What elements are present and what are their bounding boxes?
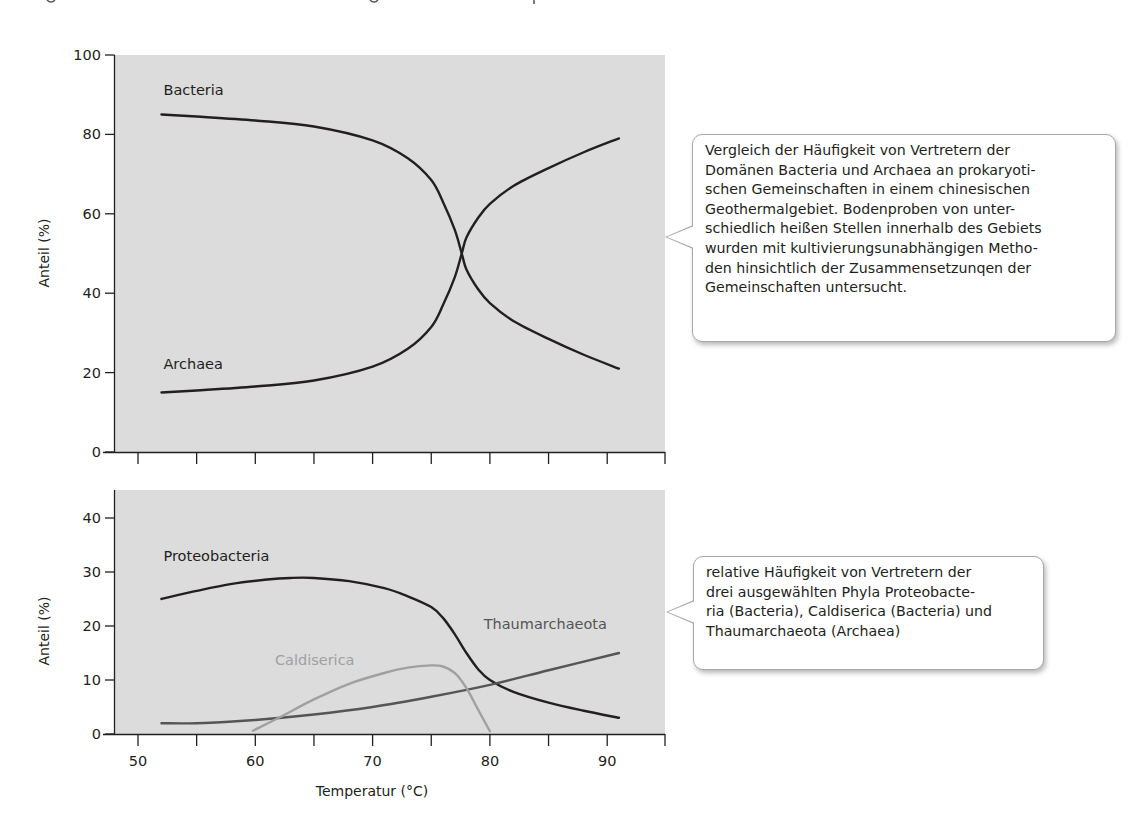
- x-tick-label: 60: [246, 753, 264, 769]
- callout-bottom-text: relative Häufigkeit von Vertretern der d…: [706, 563, 1033, 641]
- x-tick-label: 70: [363, 753, 381, 769]
- series-label-proteobacteria: Proteobacteria: [163, 548, 269, 564]
- x-tick-label: 80: [481, 753, 499, 769]
- y-tick-label: 0: [92, 726, 101, 742]
- y-tick-label: 20: [83, 618, 101, 634]
- y-tick-label: 0: [92, 444, 101, 460]
- y-tick-label: 80: [83, 126, 101, 142]
- y-tick-label: 40: [83, 510, 101, 526]
- series-label-bacteria: Bacteria: [163, 82, 223, 98]
- series-label-archaea: Archaea: [163, 356, 222, 372]
- figure: 020406080100 BacteriaArchaea Anteil (%) …: [0, 0, 1143, 826]
- x-axis-bottom: 5060708090: [103, 734, 665, 769]
- callout-top-text: Vergleich der Häufigkeit von Vertretern …: [705, 141, 1105, 298]
- y-axis-bottom: 010203040: [83, 490, 115, 742]
- y-axis-top: 020406080100: [73, 47, 114, 460]
- cropped-text-descenders: [47, 0, 534, 4]
- series-label-thaumarchaeota: Thaumarchaeota: [483, 616, 607, 632]
- y-tick-label: 40: [83, 285, 101, 301]
- y-tick-label: 30: [83, 564, 101, 580]
- series-label-caldiserica: Caldiserica: [275, 652, 355, 668]
- y-tick-label: 60: [83, 206, 101, 222]
- y-tick-label: 20: [83, 365, 101, 381]
- y-axis-label-top: Anteil (%): [36, 218, 52, 287]
- x-axis-label: Temperatur (°C): [315, 783, 429, 799]
- plot-area-bottom: [115, 490, 665, 734]
- y-tick-label: 10: [83, 672, 101, 688]
- chart-top-bacteria-archaea: 020406080100 BacteriaArchaea Anteil (%): [36, 47, 665, 464]
- x-tick-label: 50: [129, 753, 147, 769]
- callout-top-description: Vergleich der Häufigkeit von Vertretern …: [692, 134, 1116, 342]
- x-tick-label: 90: [598, 753, 616, 769]
- callout-bottom-description: relative Häufigkeit von Vertretern der d…: [693, 556, 1044, 670]
- chart-bottom-phyla: 010203040 5060708090 ProteobacteriaThaum…: [36, 490, 665, 799]
- plot-area-top: [115, 55, 665, 452]
- chart-canvas: 020406080100 BacteriaArchaea Anteil (%) …: [0, 0, 1143, 826]
- x-axis-top: [103, 452, 665, 464]
- y-axis-label-bottom: Anteil (%): [36, 596, 52, 665]
- y-tick-label: 100: [73, 47, 101, 63]
